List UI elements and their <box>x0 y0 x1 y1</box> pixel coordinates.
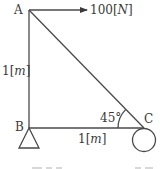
cropped-text-fragment <box>32 167 42 169</box>
cropped-text-fragment <box>56 167 62 169</box>
cropped-text-fragment <box>135 167 141 169</box>
truss-diagram: A B C 100[N] 1[m] 1[m] 45° <box>0 0 160 169</box>
angle-label: 45° <box>100 111 121 125</box>
dimension-bc-label: 1[m] <box>78 132 106 146</box>
dimension-ab-label: 1[m] <box>2 64 30 78</box>
roller-support-icon <box>133 129 156 152</box>
node-label-c: C <box>144 112 153 126</box>
cropped-text-fragment <box>46 167 52 169</box>
member-ac <box>29 10 144 128</box>
force-label: 100[N] <box>90 3 133 17</box>
node-label-b: B <box>15 120 24 134</box>
node-label-a: A <box>13 3 23 17</box>
cropped-text-fragment <box>145 167 153 169</box>
